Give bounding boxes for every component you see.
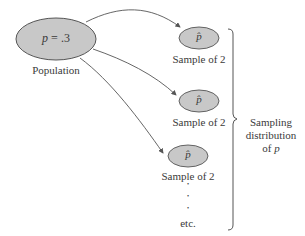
- brace-label-line1: Sampling: [238, 116, 304, 129]
- continuation-dot-2: •: [183, 193, 193, 199]
- sample-symbol-2: p̂: [189, 93, 209, 105]
- sample-caption-1: Sample of 2: [164, 53, 234, 65]
- continuation-dot-3: •: [183, 205, 193, 211]
- brace-label: Sampling distribution of p: [238, 116, 304, 155]
- population-value: = .3: [48, 31, 70, 45]
- arrow-to-sample-3: [80, 58, 163, 153]
- continuation-dot-1: •: [183, 181, 193, 187]
- sample-caption-2: Sample of 2: [164, 116, 234, 128]
- sample-symbol-1: p̂: [189, 30, 209, 42]
- brace-label-line2: distribution: [238, 129, 304, 142]
- brace-label-prefix: of: [262, 142, 274, 154]
- brace-label-variable: p: [274, 142, 280, 154]
- sample-symbol-3: p̂: [178, 148, 198, 160]
- population-caption: Population: [26, 64, 86, 76]
- continuation-caption: etc.: [173, 217, 203, 229]
- brace-label-line3: of p: [238, 142, 304, 155]
- arrow-to-sample-1: [86, 10, 180, 27]
- population-label: p = .3: [34, 31, 78, 46]
